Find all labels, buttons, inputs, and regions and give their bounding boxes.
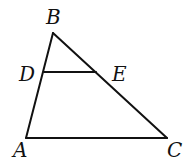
label-c: C: [167, 138, 182, 162]
label-a: A: [11, 138, 27, 162]
label-d: D: [18, 62, 35, 86]
label-b: B: [45, 5, 61, 29]
label-e: E: [111, 62, 127, 86]
segment-bc: [53, 33, 167, 138]
triangle-diagram: B D E A C: [0, 0, 190, 163]
